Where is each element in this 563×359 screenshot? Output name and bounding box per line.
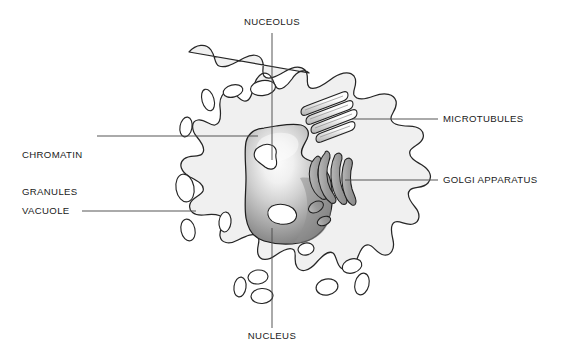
vacuole-13 bbox=[353, 272, 372, 297]
vacuole-10 bbox=[233, 276, 248, 297]
vacuole-7 bbox=[179, 218, 197, 242]
vacuole-8 bbox=[247, 269, 268, 285]
label-microtubules: MICROTUBULES bbox=[443, 113, 523, 125]
vacuole-11 bbox=[315, 277, 339, 297]
label-nucleus: NUCLEUS bbox=[222, 330, 322, 342]
label-golgi-apparatus: GOLGI APPARATUS bbox=[443, 174, 537, 186]
chromatin-granule-lower bbox=[268, 204, 297, 224]
vacuole-3 bbox=[199, 88, 217, 112]
label-vacuole: VACUOLE bbox=[22, 205, 70, 217]
cell-diagram-page: NUCEOLUS CHROMATIN GRANULES VACUOLE MICR… bbox=[0, 0, 563, 359]
vacuole-9 bbox=[251, 288, 274, 304]
label-nuceolus: NUCEOLUS bbox=[222, 16, 322, 28]
label-chromatin-granules-line1: CHROMATIN bbox=[22, 149, 83, 161]
label-chromatin-granules-line2: GRANULES bbox=[22, 186, 83, 198]
vacuole-4 bbox=[178, 116, 193, 138]
